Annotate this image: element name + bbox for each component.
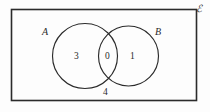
universal-set-label: ℰ <box>196 4 202 14</box>
region-count-outside: 4 <box>103 88 108 98</box>
set-b-label: B <box>155 27 161 37</box>
region-count-intersection: 0 <box>105 52 110 62</box>
region-count-a-only: 3 <box>74 52 79 62</box>
venn-diagram-figure: ℰ A B 3 0 1 4 <box>0 0 210 112</box>
region-count-b-only: 1 <box>130 52 135 62</box>
set-a-label: A <box>42 27 48 37</box>
